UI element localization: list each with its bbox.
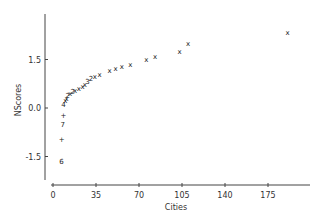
y-tick-label: 1.5 (28, 56, 41, 65)
x-axis-label: Cities (165, 203, 187, 212)
data-point: x (120, 63, 124, 71)
x-tick-label: 175 (260, 191, 275, 200)
data-point: x (286, 29, 290, 37)
data-point: x (144, 56, 148, 64)
data-point: 7 (61, 121, 65, 129)
data-point: x (128, 61, 132, 69)
data-points: 6+7+4xx2x2xxxx32xxxxxxxxxxx (59, 29, 290, 166)
x-tick-label: 0 (50, 191, 55, 200)
y-axis: 1.50.0-1.5 (25, 14, 48, 180)
data-point: x (177, 48, 181, 56)
x-tick-label: 105 (174, 191, 189, 200)
data-point: x (107, 67, 111, 75)
x-tick-label: 140 (217, 191, 232, 200)
data-point: x (93, 73, 97, 81)
data-point: + (61, 112, 67, 120)
y-axis-label: NScores (14, 84, 23, 117)
x-tick-label: 35 (91, 191, 101, 200)
x-axis: 03570105140175 (50, 183, 310, 200)
y-tick-label: -1.5 (25, 153, 41, 162)
y-tick-label: 0.0 (28, 104, 41, 113)
data-point: + (59, 136, 65, 144)
data-point: x (114, 65, 118, 73)
data-point: x (98, 71, 102, 79)
data-point: x (186, 40, 190, 48)
x-tick-label: 70 (134, 191, 144, 200)
data-point: x (153, 53, 157, 61)
data-point: 6 (59, 158, 64, 166)
scatter-plot: 1.50.0-1.5 03570105140175 6+7+4xx2x2xxxx… (0, 0, 317, 220)
